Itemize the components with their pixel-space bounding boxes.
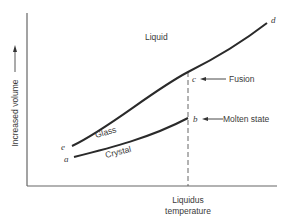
point-label-a: a <box>64 154 69 164</box>
point-label-c: c <box>192 74 196 84</box>
point-label-b: b <box>193 114 198 124</box>
point-label-d: d <box>271 15 276 25</box>
arrow-up-icon <box>13 45 17 52</box>
volume-temperature-diagram: e a c b d Liquid Glass Crystal Fusion Mo… <box>0 0 295 224</box>
annotation-fusion: Fusion <box>229 74 255 84</box>
x-axis-label-line1: Liquidus <box>172 195 204 205</box>
point-label-e: e <box>61 142 65 152</box>
region-label-liquid: Liquid <box>145 32 168 42</box>
annotation-molten-state: Molten state <box>223 114 270 124</box>
region-label-glass: Glass <box>94 124 118 140</box>
arrow-left-icon <box>202 117 208 121</box>
arrow-left-icon <box>200 77 206 81</box>
region-label-crystal: Crystal <box>104 144 132 160</box>
x-axis-label-line2: temperature <box>165 206 211 216</box>
y-axis-label: Increased volume <box>10 79 20 146</box>
